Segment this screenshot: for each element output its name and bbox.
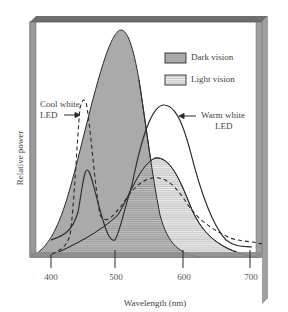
x-tick-label-400: 400 [44, 272, 58, 282]
legend-label-dark-vision: Dark vision [191, 52, 233, 62]
annotation-cool-white-line1: Cool white [40, 99, 80, 110]
x-axis-label: Wavelength (nm) [124, 298, 187, 308]
annotation-warm-white-line2: LED [215, 121, 233, 132]
y-axis-label: Relative power [15, 131, 25, 186]
legend-swatch-light-vision [165, 75, 186, 85]
x-tick-label-700: 700 [244, 272, 258, 282]
annotation-cool-white-line2: LED [40, 110, 58, 121]
x-tick-label-500: 500 [109, 272, 123, 282]
x-tick-label-600: 600 [177, 272, 191, 282]
legend-swatch-dark-vision [165, 53, 186, 63]
chart-canvas [0, 0, 288, 312]
legend-label-light-vision: Light vision [191, 74, 235, 84]
annotation-warm-white-line1: Warm white [201, 110, 245, 121]
